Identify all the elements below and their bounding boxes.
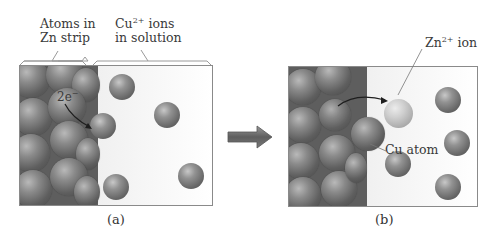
cu-atom-label: Cu atom	[385, 143, 438, 157]
caption-b: (b)	[375, 212, 393, 227]
panel-b-annotations	[0, 0, 496, 229]
